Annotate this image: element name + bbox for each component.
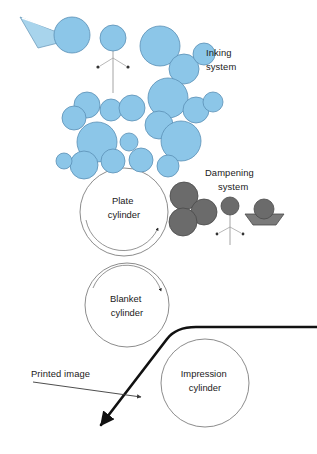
label-plate-cylinder-line1: Plate (112, 195, 133, 206)
label-blanket-cylinder-line2: cylinder (111, 307, 143, 318)
damp-oscillator-right-arm (230, 227, 241, 233)
ink-oscillator-right-pivot-dot (126, 65, 129, 68)
ink-roller-19[interactable] (70, 151, 98, 179)
ink-roller-17[interactable] (101, 149, 125, 173)
label-dampening-system-line1: Dampening (205, 167, 254, 178)
ink-roller-15[interactable] (120, 133, 138, 151)
ductor-roller[interactable] (100, 25, 126, 51)
ink-roller-group (54, 17, 223, 179)
label-dampening-system: Dampening system (205, 167, 257, 192)
damp-oscillator-left-pivot-dot (216, 233, 219, 236)
damp-oscillator-left-arm (219, 227, 230, 233)
ink-roller-21[interactable] (157, 155, 179, 177)
label-impression-cylinder-line1: Impression (181, 368, 227, 379)
damp-roller-3[interactable] (169, 208, 197, 236)
label-blanket-cylinder-line1: Blanket (110, 293, 142, 304)
ink-roller-20[interactable] (56, 153, 72, 169)
damp-fountain-roller[interactable] (254, 199, 274, 219)
ink-roller-18[interactable] (129, 148, 153, 172)
label-plate-cylinder-line2: cylinder (108, 209, 140, 220)
ink-roller-8[interactable] (119, 95, 145, 121)
fountain-roller[interactable] (54, 17, 90, 53)
label-impression-cylinder-line2: cylinder (189, 382, 221, 393)
printed-image-arrow (33, 382, 141, 397)
damp-oscillator-right-pivot-dot (242, 233, 245, 236)
ink-oscillator-left-pivot-dot (96, 65, 99, 68)
label-inking-system-line1: Inking (206, 47, 232, 58)
ink-roller-12[interactable] (203, 92, 223, 112)
damp-ductor-roller[interactable] (221, 197, 239, 215)
ink-roller-7[interactable] (100, 99, 122, 121)
label-printed-image: Printed image (31, 368, 90, 379)
ink-oscillator-right-arm (113, 58, 126, 66)
diagram-canvas: Inking system Dampening system Plate cyl… (0, 0, 317, 454)
ink-oscillator-left-arm (100, 58, 113, 66)
label-inking-system-line2: system (206, 61, 236, 72)
label-dampening-system-line2: system (218, 181, 248, 192)
blanket-cylinder[interactable] (85, 263, 169, 347)
ink-roller-9[interactable] (62, 106, 86, 130)
press-schematic-svg: Inking system Dampening system Plate cyl… (0, 0, 317, 454)
